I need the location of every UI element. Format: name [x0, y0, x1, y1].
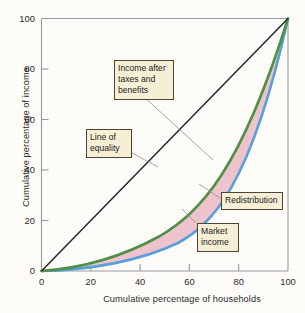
callout-line-of-equality: Line of equality [86, 129, 132, 158]
callout-market-income: Market income [197, 223, 239, 252]
x-tick-label-100: 100 [273, 276, 303, 287]
y-axis-ticks [42, 69, 49, 221]
x-tick-label-0: 0 [27, 276, 57, 287]
y-tick-label-40: 40 [9, 164, 35, 175]
callout-income-after-taxes: Income after taxes and benefits [114, 60, 174, 100]
y-tick-label-20: 20 [9, 215, 35, 226]
x-axis-ticks [91, 264, 239, 271]
y-tick-label-60: 60 [9, 114, 35, 125]
y-tick-label-0: 0 [9, 265, 35, 276]
x-tick-label-40: 40 [125, 276, 155, 287]
callout-redistribution: Redistribution [221, 192, 283, 210]
x-tick-label-60: 60 [174, 276, 204, 287]
x-tick-label-20: 20 [76, 276, 106, 287]
y-tick-label-100: 100 [9, 13, 35, 24]
x-tick-label-80: 80 [224, 276, 254, 287]
y-axis-title: Cumulative percentage of income [21, 57, 31, 217]
chart-plot-area [0, 0, 305, 313]
y-tick-label-80: 80 [9, 63, 35, 74]
lorenz-curve-figure: Cumulative percentage of income Cumulati… [0, 0, 305, 313]
x-axis-title: Cumulative percentage of households [62, 294, 302, 304]
